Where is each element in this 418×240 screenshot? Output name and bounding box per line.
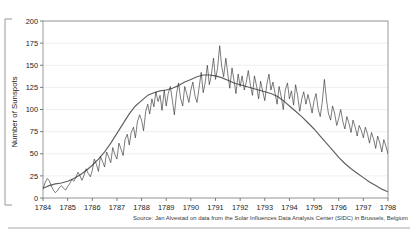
x-tick-label: 1797 bbox=[355, 203, 371, 212]
x-tick-label: 1795 bbox=[306, 203, 322, 212]
y-tick-label: 200 bbox=[26, 17, 38, 26]
x-tick-label: 1787 bbox=[109, 203, 125, 212]
x-tick-label: 1792 bbox=[232, 203, 248, 212]
x-tick-label: 1798 bbox=[380, 203, 396, 212]
x-tick-label: 1790 bbox=[183, 203, 199, 212]
y-tick-label: 25 bbox=[30, 172, 38, 181]
y-axis-title: Number of Sunspots bbox=[10, 76, 19, 147]
x-tick-label: 1784 bbox=[35, 203, 51, 212]
y-tick-label: 75 bbox=[30, 127, 38, 136]
x-tick-label: 1796 bbox=[330, 203, 346, 212]
y-tick-label: 50 bbox=[30, 149, 38, 158]
x-tick-label: 1786 bbox=[84, 203, 100, 212]
x-tick-label: 1793 bbox=[257, 203, 273, 212]
source-caption: Source: Jan Alvestad on data from the So… bbox=[133, 215, 408, 221]
x-tick-label: 1785 bbox=[59, 203, 75, 212]
y-tick-label: 100 bbox=[26, 105, 38, 114]
x-tick-label: 1791 bbox=[207, 203, 223, 212]
sunspot-chart-figure: Number of Sunspots 025507510012515017520… bbox=[0, 0, 418, 240]
y-tick-label: 0 bbox=[34, 194, 38, 203]
x-tick-label: 1789 bbox=[158, 203, 174, 212]
y-tick-label: 150 bbox=[26, 61, 38, 70]
x-tick-label: 1794 bbox=[281, 203, 297, 212]
x-tick-label: 1788 bbox=[133, 203, 149, 212]
y-tick-label: 175 bbox=[26, 39, 38, 48]
y-tick-label: 125 bbox=[26, 83, 38, 92]
